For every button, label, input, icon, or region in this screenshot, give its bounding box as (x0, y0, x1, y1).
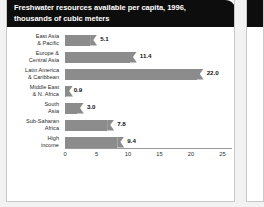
x-axis-tick-label: 15 (156, 151, 162, 157)
bar-category-label-line: & N. Africa (33, 91, 59, 98)
bar-value-label: 9.4 (127, 137, 136, 144)
bar-category-label-line: Europe & (36, 50, 59, 57)
bar-category-label-line: Middle East (30, 84, 59, 91)
bar (65, 35, 90, 46)
bar-value-label: 5.1 (100, 35, 109, 42)
bar-category-label-line: Central Asia (29, 57, 59, 64)
bar (65, 120, 107, 131)
bar-row: SouthAsia3.0 (7, 100, 235, 116)
bar-row: Sub-SaharanAfrica7.8 (7, 117, 235, 133)
bar (65, 137, 117, 148)
bar-row: Middle East& N. Africa0.9 (7, 83, 235, 99)
bar-tail (197, 69, 204, 80)
bar-category-label-line: Asia (48, 108, 59, 115)
bar (65, 52, 130, 63)
x-axis-tick-label: 0 (63, 151, 66, 157)
chart-plot-area: East Asia& Pacific5.1Europe &Central Asi… (7, 27, 235, 202)
x-axis-tick-label: 10 (125, 151, 131, 157)
bar-tail (90, 35, 97, 46)
bar-track: 22.0 (65, 66, 232, 82)
bar-value-label: 7.8 (117, 120, 126, 127)
x-axis-tick-label: 25 (219, 151, 225, 157)
chart-header-bar: Freshwater resources available per capit… (7, 0, 235, 27)
bar-value-label: 22.0 (207, 69, 219, 76)
x-axis: 0510152025 (65, 148, 232, 168)
bar-row: East Asia& Pacific5.1 (7, 32, 235, 48)
x-axis-line (65, 148, 232, 149)
bar-category-label-line: South (44, 101, 59, 108)
bar-category-label-line: Sub-Saharan (26, 118, 59, 125)
next-page-sliver (246, 0, 264, 202)
bar-track: 7.8 (65, 117, 232, 133)
bar-tail (107, 120, 114, 131)
chart-screenshot: Freshwater resources available per capit… (0, 0, 264, 207)
bar-row: Latin America& Caribbean22.0 (7, 66, 235, 82)
bar-tail (117, 137, 124, 148)
next-page-header-bar (247, 0, 264, 27)
chart-title-line-1: Freshwater resources available per capit… (14, 3, 228, 14)
bar-track: 11.4 (65, 49, 232, 65)
bar-category-label: Sub-SaharanAfrica (7, 117, 61, 133)
bar-category-label: Latin America& Caribbean (7, 66, 61, 82)
bar-category-label-line: & Caribbean (28, 74, 59, 81)
bar-category-label-line: Latin America (25, 67, 59, 74)
bar-track: 3.0 (65, 100, 232, 116)
bar-category-label: SouthAsia (7, 100, 61, 116)
bar-category-label-line: income (41, 142, 59, 149)
bar (65, 86, 66, 97)
bar-value-label: 3.0 (87, 103, 96, 110)
bar-category-label-line: East Asia (36, 33, 59, 40)
bar-value-label: 11.4 (140, 52, 152, 59)
bar-category-label: Europe &Central Asia (7, 49, 61, 65)
bar-row: Europe &Central Asia11.4 (7, 49, 235, 65)
bar-category-label-line: High (47, 135, 59, 142)
bar-track: 5.1 (65, 32, 232, 48)
bar-tail (77, 103, 84, 114)
bar-value-label: 0.9 (74, 86, 83, 93)
chart-title-line-2: thousands of cubic meters (14, 14, 228, 25)
x-axis-tick-label: 5 (95, 151, 98, 157)
bar-rows: East Asia& Pacific5.1Europe &Central Asi… (7, 32, 235, 151)
bar (65, 69, 197, 80)
bar-category-label: Highincome (7, 134, 61, 150)
bar-category-label-line: & Pacific (37, 40, 59, 47)
chart-title: Freshwater resources available per capit… (14, 3, 228, 24)
bar-track: 0.9 (65, 83, 232, 99)
bar-category-label-line: Africa (45, 125, 59, 132)
chart-page-panel: Freshwater resources available per capit… (6, 0, 235, 202)
bar-category-label: East Asia& Pacific (7, 32, 61, 48)
bar (65, 103, 77, 114)
bar-category-label: Middle East& N. Africa (7, 83, 61, 99)
bar-tail (66, 86, 73, 97)
bar-tail (130, 52, 137, 63)
x-axis-tick-label: 20 (188, 151, 194, 157)
